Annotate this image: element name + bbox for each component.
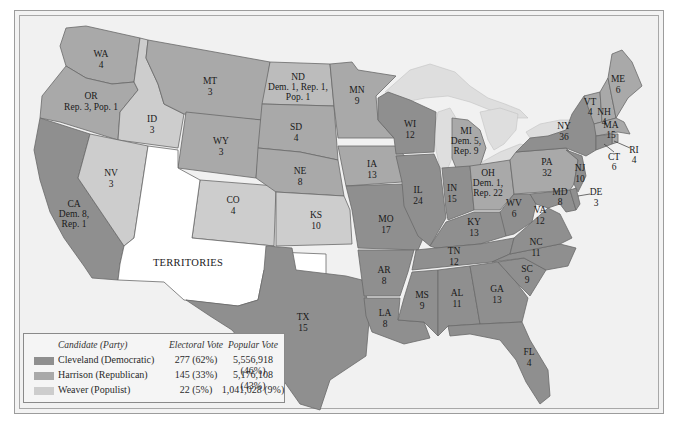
legend-header-popular: Popular Vote [220,340,286,350]
label-WI: WI12 [404,119,416,140]
label-NJ: NJ10 [575,163,586,184]
legend-row-cleveland: Cleveland (Democratic) 277 (62%) 5,556,9… [24,354,284,368]
label-IN: IN15 [447,183,457,204]
legend-candidate: Cleveland (Democratic) [58,354,154,365]
label-RI: RI4 [629,145,639,165]
state-FL[interactable] [448,322,550,404]
label-DE: DE3 [590,187,603,208]
legend-electoral-vote: 277 (62%) [166,354,226,365]
lake-huron [480,108,518,150]
label-IA: IA13 [367,159,377,180]
leader-DE [578,194,590,196]
legend: Candidate (Party) Electoral Vote Popular… [23,333,285,403]
label-territories: TERRITORIES [153,257,223,268]
label-TX: TX15 [297,312,310,333]
legend-row-harrison: Harrison (Republican) 145 (33%) 5,176,10… [24,369,284,383]
legend-swatch-republican [34,372,54,380]
legend-header-candidate: Candidate (Party) [58,340,127,350]
legend-electoral-vote: 22 (5%) [166,384,226,395]
legend-candidate: Harrison (Republican) [58,369,148,380]
legend-candidate: Weaver (Populist) [58,384,130,395]
label-TN: TN12 [448,246,461,267]
label-VA: VA12 [534,205,547,226]
legend-row-weaver: Weaver (Populist) 22 (5%) 1,041,028 (9%) [24,384,284,398]
leader-RI [614,141,630,148]
legend-swatch-democratic [34,357,54,365]
legend-header-electoral: Electoral Vote [166,340,226,350]
label-KS: KS10 [310,210,322,231]
legend-swatch-populist [34,387,54,395]
state-IN[interactable] [442,166,474,220]
legend-popular-vote: 1,041,028 (9%) [220,384,286,395]
label-CT: CT6 [608,152,620,172]
legend-electoral-vote: 145 (33%) [166,369,226,380]
label-PA: PA32 [541,157,552,178]
label-IL: IL24 [413,185,423,206]
